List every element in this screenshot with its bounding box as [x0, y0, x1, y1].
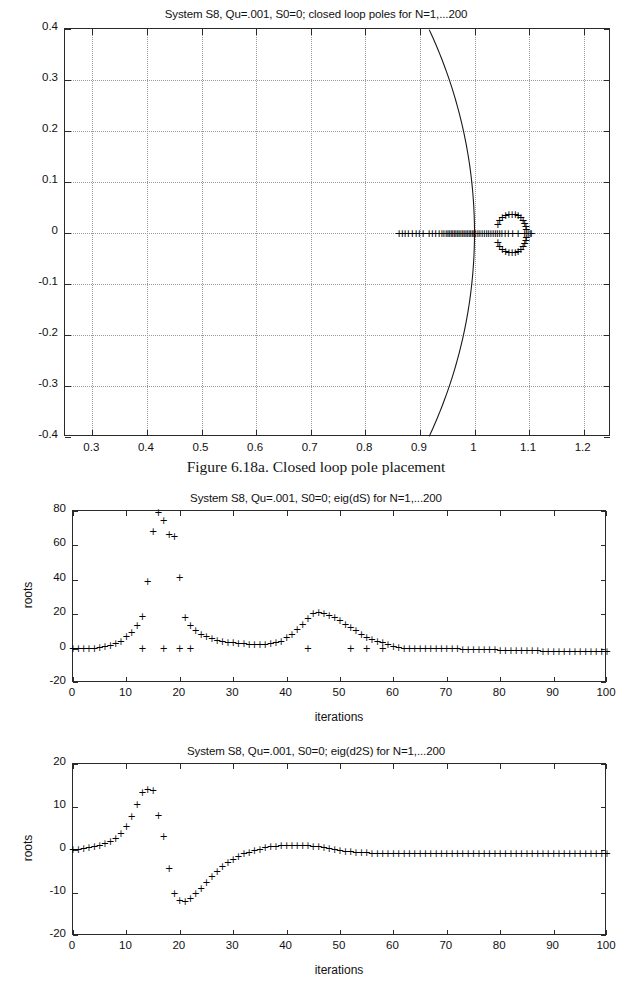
axis-tick-label-x: 0 — [44, 939, 100, 951]
tick-mark — [233, 511, 234, 516]
axis-tick-label-x: 80 — [471, 686, 527, 698]
eig-d2s-plot-title: System S8, Qu=.001, S0=0; eig(d2S) for N… — [0, 745, 632, 757]
tick-mark — [601, 580, 606, 581]
axis-tick-label-x: 0.5 — [173, 441, 229, 453]
axis-tick-label-x: 0 — [44, 686, 100, 698]
axis-tick-label-x: 50 — [311, 939, 367, 951]
data-point-marker: + — [138, 644, 146, 654]
pole-marker: + — [522, 231, 531, 242]
tick-mark — [606, 930, 607, 935]
axis-tick-label-x: 80 — [471, 939, 527, 951]
axis-tick-label-x: 20 — [151, 686, 207, 698]
axis-tick-label-x: 1.2 — [555, 441, 611, 453]
axis-tick-label-y: 10 — [26, 798, 66, 810]
axis-tick-label-x: 0.9 — [391, 441, 447, 453]
tick-mark — [554, 930, 555, 935]
data-point-marker: + — [176, 644, 184, 654]
tick-mark — [601, 614, 606, 615]
axis-tick-label-x: 10 — [97, 939, 153, 951]
tick-mark — [73, 580, 78, 581]
tick-mark — [393, 511, 394, 516]
tick-mark — [554, 511, 555, 516]
axis-tick-label-y: 0.4 — [16, 20, 58, 32]
data-point-marker: + — [160, 644, 168, 654]
axis-tick-label-y: 80 — [26, 502, 66, 514]
data-point-marker: + — [133, 621, 141, 631]
tick-mark — [500, 930, 501, 935]
tick-mark — [393, 677, 394, 682]
tick-mark — [73, 682, 78, 683]
axis-tick-label-x: 0.4 — [118, 441, 174, 453]
axis-tick-label-x: 60 — [364, 939, 420, 951]
tick-mark — [73, 935, 78, 936]
tick-mark — [604, 437, 610, 438]
tick-mark — [233, 764, 234, 769]
data-point-marker: + — [603, 849, 611, 859]
axis-tick-label-y: 0.1 — [16, 173, 58, 185]
tick-mark — [180, 511, 181, 516]
data-point-marker: + — [362, 644, 370, 654]
eig-d2s-plot-axes: ++++++++++++++++++++++++++++++++++++++++… — [72, 763, 606, 935]
data-point-marker: + — [176, 573, 184, 583]
axis-tick-label-x: 40 — [258, 939, 314, 951]
axis-tick-label-x: 70 — [418, 939, 474, 951]
axis-tick-label-y: -0.2 — [16, 326, 58, 338]
axis-tick-label-x: 30 — [204, 939, 260, 951]
axis-tick-label-x: 50 — [311, 686, 367, 698]
axis-tick-label-x: 60 — [364, 686, 420, 698]
data-point-marker: + — [149, 527, 157, 537]
axis-tick-label-y: 0.2 — [16, 122, 58, 134]
tick-mark — [500, 764, 501, 769]
tick-mark — [601, 682, 606, 683]
tick-mark — [287, 677, 288, 682]
axis-tick-label-y: 40 — [26, 571, 66, 583]
tick-mark — [606, 764, 607, 769]
axis-tick-label-y: 20 — [26, 755, 66, 767]
data-point-marker: + — [133, 800, 141, 810]
figure-page: System S8, Qu=.001, S0=0; closed loop po… — [0, 0, 632, 1003]
data-point-marker: + — [160, 832, 168, 842]
axis-tick-label-y: 0 — [16, 224, 58, 236]
axis-tick-label-x: 20 — [151, 939, 207, 951]
tick-mark — [447, 677, 448, 682]
axis-tick-label-x: 0.7 — [282, 441, 338, 453]
tick-mark — [287, 764, 288, 769]
axis-tick-label-x: 40 — [258, 686, 314, 698]
tick-mark — [340, 677, 341, 682]
eig-d2s-figure: System S8, Qu=.001, S0=0; eig(d2S) for N… — [0, 745, 632, 1003]
data-point-marker: + — [170, 532, 178, 542]
eig-d2s-xlabel: iterations — [72, 963, 606, 977]
axis-tick-label-x: 0.8 — [336, 441, 392, 453]
axis-tick-label-y: 60 — [26, 536, 66, 548]
data-point-marker: + — [346, 644, 354, 654]
data-point-marker: + — [160, 516, 168, 526]
pole-placement-figure: System S8, Qu=.001, S0=0; closed loop po… — [0, 0, 632, 455]
tick-mark — [65, 437, 71, 438]
axis-tick-label-x: 90 — [525, 686, 581, 698]
axis-tick-label-x: 0.6 — [227, 441, 283, 453]
tick-mark — [447, 930, 448, 935]
axis-tick-label-y: 0.3 — [16, 71, 58, 83]
tick-mark — [287, 930, 288, 935]
tick-mark — [393, 764, 394, 769]
tick-mark — [233, 677, 234, 682]
data-point-marker: + — [379, 644, 387, 654]
axis-tick-label-x: 100 — [578, 939, 632, 951]
tick-mark — [601, 511, 606, 512]
data-point-marker: + — [138, 612, 146, 622]
axis-tick-label-y: -0.3 — [16, 377, 58, 389]
data-point-marker: + — [603, 647, 611, 657]
tick-mark — [126, 677, 127, 682]
tick-mark — [73, 807, 78, 808]
data-point-marker: + — [149, 786, 157, 796]
axis-tick-label-x: 100 — [578, 686, 632, 698]
tick-mark — [606, 677, 607, 682]
axis-tick-label-y: -20 — [26, 927, 66, 939]
axis-tick-label-x: 0.3 — [63, 441, 119, 453]
axis-tick-label-x: 70 — [418, 686, 474, 698]
axis-tick-label-x: 30 — [204, 686, 260, 698]
tick-mark — [126, 930, 127, 935]
tick-mark — [500, 511, 501, 516]
tick-mark — [606, 511, 607, 516]
tick-mark — [447, 764, 448, 769]
